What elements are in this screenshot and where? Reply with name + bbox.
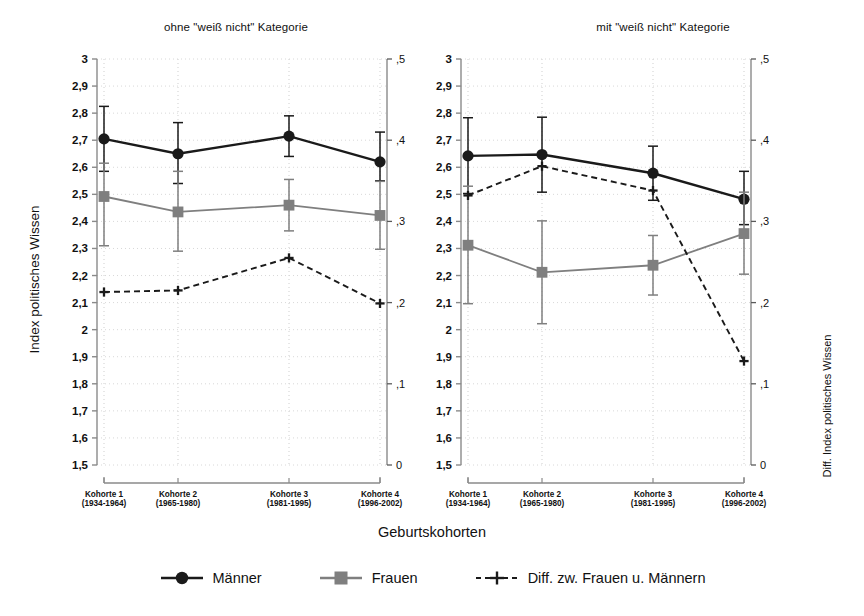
svg-text:2,8: 2,8 (72, 107, 89, 119)
svg-text:,4: ,4 (760, 134, 769, 146)
svg-text:(1965-1980): (1965-1980) (520, 499, 565, 508)
legend-label-maenner: Männer (213, 570, 262, 586)
svg-text:(1981-1995): (1981-1995) (267, 499, 312, 508)
svg-text:2,7: 2,7 (72, 134, 88, 146)
svg-text:Kohorte 1: Kohorte 1 (85, 490, 124, 499)
x-axis-title: Geburtskohorten (0, 524, 864, 540)
svg-text:1,5: 1,5 (436, 459, 453, 471)
y-axis-title-left: Index politisches Wissen (27, 150, 42, 410)
svg-text:,4: ,4 (396, 134, 405, 146)
svg-text:2,5: 2,5 (72, 188, 89, 200)
svg-text:2,5: 2,5 (436, 188, 453, 200)
svg-text:2,9: 2,9 (436, 80, 452, 92)
svg-text:1,6: 1,6 (436, 432, 452, 444)
svg-text:,1: ,1 (396, 378, 405, 390)
svg-text:,5: ,5 (396, 53, 405, 65)
svg-text:3: 3 (446, 53, 452, 65)
svg-text:2,2: 2,2 (72, 270, 88, 282)
svg-text:2: 2 (82, 324, 88, 336)
svg-text:Kohorte 4: Kohorte 4 (361, 490, 400, 499)
svg-text:(1934-1964): (1934-1964) (446, 499, 491, 508)
svg-text:1,7: 1,7 (72, 405, 88, 417)
svg-text:1,8: 1,8 (72, 378, 89, 390)
figure-root: ohne "weiß nicht" Kategorie 32,92,82,72,… (0, 0, 864, 616)
y-axis-title-right: Diff. Index politisches Wissen (821, 291, 833, 521)
filled-square-icon (318, 570, 364, 586)
svg-text:(1996-2002): (1996-2002) (722, 499, 767, 508)
svg-text:2,8: 2,8 (436, 107, 453, 119)
legend: Männer Frauen Diff. zw. Frauen u. Männer… (0, 570, 864, 586)
svg-text:(1965-1980): (1965-1980) (156, 499, 201, 508)
svg-text:Kohorte 1: Kohorte 1 (449, 490, 488, 499)
svg-text:2,9: 2,9 (72, 80, 88, 92)
legend-label-differenz: Diff. zw. Frauen u. Männern (528, 570, 706, 586)
svg-text:2,4: 2,4 (436, 215, 453, 227)
svg-text:1,5: 1,5 (72, 459, 89, 471)
plus-marker-icon (474, 570, 520, 586)
svg-text:,2: ,2 (760, 297, 769, 309)
svg-text:,5: ,5 (760, 53, 769, 65)
svg-text:,3: ,3 (760, 215, 769, 227)
svg-text:2,3: 2,3 (72, 242, 88, 254)
svg-text:2: 2 (446, 324, 452, 336)
svg-text:1,8: 1,8 (436, 378, 453, 390)
svg-text:1,6: 1,6 (72, 432, 88, 444)
svg-text:2,4: 2,4 (72, 215, 89, 227)
svg-text:Kohorte 3: Kohorte 3 (270, 490, 309, 499)
svg-text:(1996-2002): (1996-2002) (358, 499, 403, 508)
legend-item-differenz[interactable]: Diff. zw. Frauen u. Männern (474, 570, 706, 586)
svg-text:,1: ,1 (760, 378, 769, 390)
svg-text:2,3: 2,3 (436, 242, 452, 254)
svg-text:0: 0 (396, 459, 402, 471)
svg-text:Kohorte 2: Kohorte 2 (523, 490, 562, 499)
svg-text:2,6: 2,6 (72, 161, 88, 173)
svg-text:2,1: 2,1 (72, 297, 89, 309)
svg-text:1,7: 1,7 (436, 405, 452, 417)
svg-text:2,2: 2,2 (436, 270, 452, 282)
svg-text:,3: ,3 (396, 215, 405, 227)
svg-text:2,1: 2,1 (436, 297, 453, 309)
filled-circle-icon (159, 570, 205, 586)
legend-item-frauen[interactable]: Frauen (318, 570, 418, 586)
svg-text:(1934-1964): (1934-1964) (82, 499, 127, 508)
svg-text:1,9: 1,9 (436, 351, 452, 363)
svg-text:Kohorte 3: Kohorte 3 (634, 490, 673, 499)
svg-text:Kohorte 2: Kohorte 2 (159, 490, 198, 499)
svg-text:1,9: 1,9 (72, 351, 88, 363)
svg-text:Kohorte 4: Kohorte 4 (725, 490, 764, 499)
svg-text:0: 0 (760, 459, 766, 471)
svg-text:2,7: 2,7 (436, 134, 452, 146)
legend-item-maenner[interactable]: Männer (159, 570, 262, 586)
svg-text:2,6: 2,6 (436, 161, 452, 173)
svg-text:,2: ,2 (396, 297, 405, 309)
svg-text:(1981-1995): (1981-1995) (631, 499, 676, 508)
svg-text:3: 3 (82, 53, 88, 65)
legend-label-frauen: Frauen (372, 570, 418, 586)
